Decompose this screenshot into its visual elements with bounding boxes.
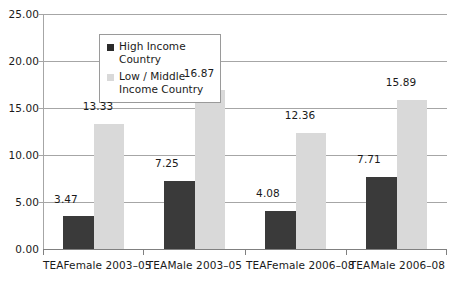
y-tick-label-5: 5.00: [15, 196, 39, 208]
x-category-label-3: TEAFemale 2006–08: [246, 259, 347, 271]
x-tick-separator-1: [143, 249, 144, 255]
x-tick-separator-3: [346, 249, 347, 255]
y-tick-label-20: 20.00: [8, 55, 39, 67]
bar-high-income-teafemale-2006-08: [265, 211, 296, 249]
y-tick-label-25: 25.00: [8, 8, 39, 20]
legend-swatch-icon-high-income: [107, 44, 114, 51]
bar-value-label-high-income-2: 7.25: [144, 157, 190, 169]
y-tick-mark-10: [38, 155, 43, 156]
y-tick-mark-15: [38, 108, 43, 109]
gridline-25: [43, 14, 447, 15]
bar-value-label-low-middle-3: 12.36: [277, 109, 323, 121]
bar-value-label-low-middle-1: 13.33: [75, 100, 121, 112]
bar-low-middle-income-teafemale-2006-08: [296, 133, 326, 249]
y-tick-label-10: 10.00: [8, 149, 39, 161]
bar-value-label-high-income-3: 4.08: [245, 187, 291, 199]
plot-area: High Income Country Low / Middle Income …: [43, 14, 447, 249]
bar-chart: 25.00 20.00 15.00 10.00 5.00 0.00 H: [0, 0, 457, 289]
y-tick-label-15: 15.00: [8, 102, 39, 114]
y-tick-label-0: 0.00: [15, 243, 39, 255]
y-tick-mark-20: [38, 61, 43, 62]
bar-value-label-low-middle-2: 16.87: [176, 67, 222, 79]
legend-swatch-icon-low-middle-income: [107, 74, 114, 81]
bar-value-label-low-middle-4: 15.89: [378, 76, 424, 88]
legend-label-high-income: High Income Country: [119, 40, 213, 66]
x-tick-separator-end: [446, 249, 447, 255]
bar-high-income-teamale-2006-08: [366, 177, 397, 250]
bar-value-label-high-income-4: 7.71: [346, 153, 392, 165]
x-category-label-1: TEAFemale 2003–05: [43, 259, 144, 271]
bar-low-middle-income-teamale-2003-05: [195, 90, 225, 249]
bar-low-middle-income-teamale-2006-08: [397, 100, 427, 249]
legend-item-high-income: High Income Country: [107, 40, 213, 66]
x-tick-separator-2: [245, 249, 246, 255]
x-tick-separator-start: [43, 249, 44, 255]
x-category-label-2: TEAMale 2003–05: [144, 259, 245, 271]
bar-high-income-teafemale-2003-05: [63, 216, 94, 249]
bar-value-label-high-income-1: 3.47: [43, 193, 89, 205]
x-category-label-4: TEAMale 2006–08: [347, 259, 448, 271]
y-axis-tick-labels: 25.00 20.00 15.00 10.00 5.00 0.00: [0, 0, 39, 289]
y-tick-mark-25: [38, 14, 43, 15]
bar-low-middle-income-teafemale-2003-05: [94, 124, 124, 249]
bar-high-income-teamale-2003-05: [164, 181, 195, 249]
